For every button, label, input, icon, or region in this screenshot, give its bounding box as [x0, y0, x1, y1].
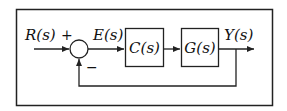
plus-sign: +: [61, 27, 73, 43]
plant-label: G(s): [184, 39, 216, 57]
minus-sign: −: [86, 59, 98, 75]
output-signal-label: Y(s): [224, 26, 253, 44]
controller-label: C(s): [129, 39, 160, 57]
input-signal-label: R(s): [24, 26, 56, 44]
error-signal-label: E(s): [92, 26, 123, 44]
block-diagram: R(s) + − E(s) C(s) G(s) Y(s): [0, 0, 287, 111]
